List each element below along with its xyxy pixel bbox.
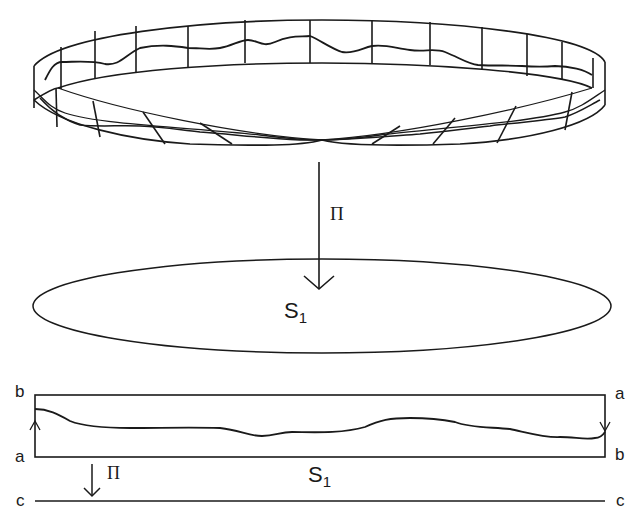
base-line-right-label: c bbox=[616, 491, 625, 510]
rect-corner-bottom-left: a bbox=[15, 447, 25, 466]
mobius-projection-diagram: Π S1 b a a b Π S1 c c bbox=[0, 0, 644, 531]
projection-arrow-small bbox=[84, 464, 100, 496]
rect-corner-top-right: a bbox=[615, 384, 625, 403]
unfolded-rectangle bbox=[30, 395, 610, 457]
projection-label-small: Π bbox=[107, 463, 120, 483]
rect-center-label: S1 bbox=[308, 462, 331, 490]
projection-label-main: Π bbox=[330, 203, 344, 224]
rect-corner-top-left: b bbox=[15, 382, 24, 401]
circle-label: S1 bbox=[284, 298, 307, 326]
base-line-left-label: c bbox=[16, 491, 25, 510]
projection-arrow-main bbox=[304, 162, 334, 289]
mobius-band bbox=[34, 20, 605, 145]
circle-s1 bbox=[33, 259, 611, 353]
rect-corner-bottom-right: b bbox=[615, 445, 624, 464]
